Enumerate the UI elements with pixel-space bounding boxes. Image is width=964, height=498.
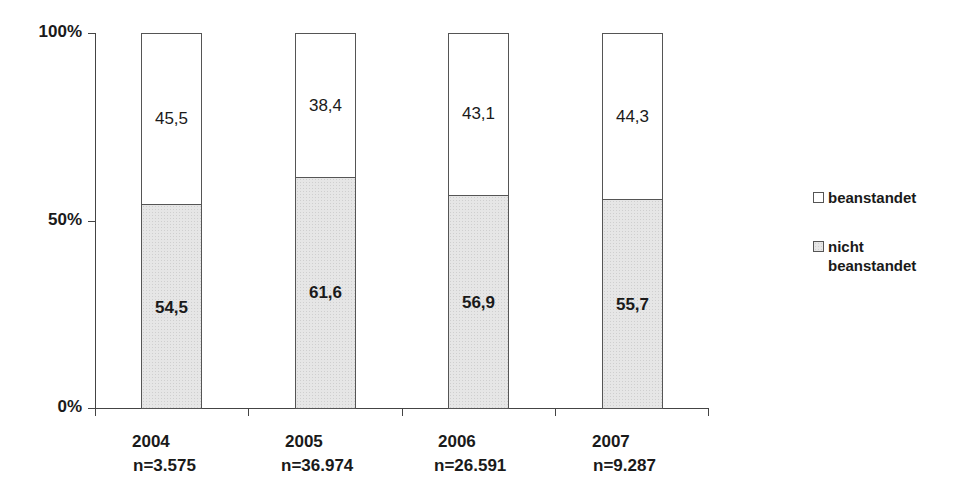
x-label-year: 2005 xyxy=(285,432,323,452)
legend-swatch-nicht-beanstandet xyxy=(813,241,824,252)
x-label-year: 2004 xyxy=(132,432,170,452)
y-tick-label-50: 50% xyxy=(12,210,82,230)
y-tick xyxy=(88,221,95,222)
y-axis xyxy=(95,33,96,409)
x-label-n: n=26.591 xyxy=(434,456,506,476)
y-tick xyxy=(88,33,95,34)
legend-swatch-beanstandet xyxy=(813,192,824,203)
y-tick-label-100: 100% xyxy=(12,22,82,42)
y-tick-label-0: 0% xyxy=(12,397,82,417)
value-label-beanstandet: 43,1 xyxy=(448,104,509,124)
x-tick xyxy=(95,408,96,416)
x-label-year: 2007 xyxy=(592,432,630,452)
value-label-beanstandet: 45,5 xyxy=(141,109,202,129)
value-label-nicht-beanstandet: 54,5 xyxy=(141,298,202,318)
x-label-n: n=3.575 xyxy=(133,456,196,476)
x-tick xyxy=(555,408,556,416)
value-label-nicht-beanstandet: 61,6 xyxy=(295,283,356,303)
value-label-nicht-beanstandet: 56,9 xyxy=(448,293,509,313)
value-label-nicht-beanstandet: 55,7 xyxy=(602,295,663,315)
x-label-n: n=9.287 xyxy=(593,456,656,476)
y-tick xyxy=(88,408,95,409)
value-label-beanstandet: 38,4 xyxy=(295,96,356,116)
x-tick xyxy=(708,408,709,416)
value-label-beanstandet: 44,3 xyxy=(602,107,663,127)
legend-label-beanstandet: beanstandet xyxy=(828,188,916,207)
legend-label-nicht-line1: nicht xyxy=(828,237,864,256)
x-tick xyxy=(402,408,403,416)
x-label-year: 2006 xyxy=(438,432,476,452)
legend-label-nicht-line2: beanstandet xyxy=(828,256,916,275)
x-label-n: n=36.974 xyxy=(281,456,353,476)
x-tick xyxy=(248,408,249,416)
